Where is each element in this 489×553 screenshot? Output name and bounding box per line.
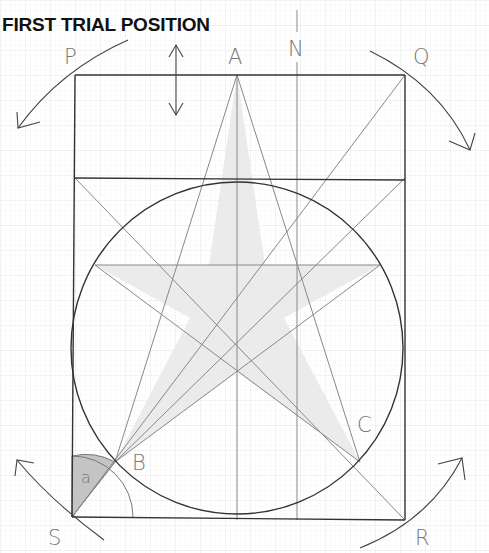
label-b: B <box>132 451 146 475</box>
label-s: S <box>48 526 61 550</box>
label-p: P <box>64 45 77 69</box>
label-q: Q <box>413 45 430 69</box>
diagram-canvas: P A N Q B C S R a <box>0 0 489 553</box>
label-angle-a: a <box>81 468 91 487</box>
label-n: N <box>288 37 304 61</box>
label-r: R <box>415 526 430 550</box>
label-a: A <box>228 45 242 69</box>
diagram-title: FIRST TRIAL POSITION <box>2 14 210 36</box>
label-c: C <box>357 413 372 437</box>
